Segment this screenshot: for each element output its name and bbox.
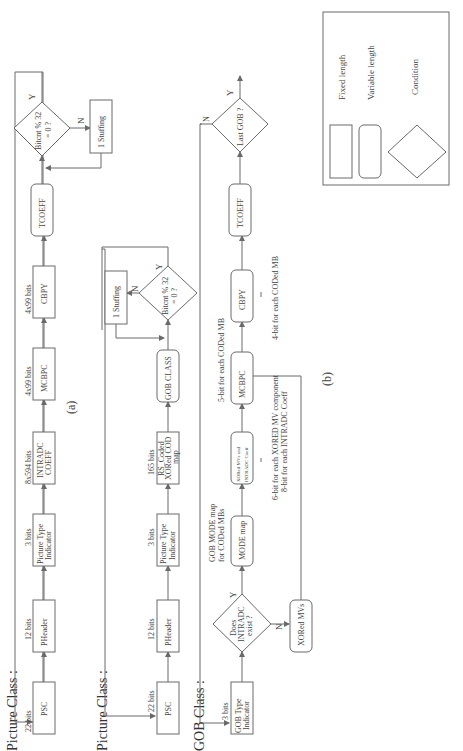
stuffing-return-b — [116, 324, 164, 338]
psc-b-bits: 22 bits — [147, 690, 156, 712]
xored-mv-intradc-box — [231, 432, 253, 484]
tcoeff-a-label: TCOEFF — [38, 198, 47, 228]
last-gob-no: N — [202, 116, 211, 122]
cbpy-a-bits: 4x99 bits — [24, 284, 33, 314]
pheader-b-label: PHeader — [164, 618, 173, 646]
bitcnt-a-label2: = 0 ? — [44, 121, 53, 138]
legend-condition-label: Condition — [410, 58, 420, 95]
part-b-picture: Picture Class : PSC 22 bits PHeader 12 b… — [95, 247, 197, 751]
mode-map-label: MODE map — [238, 521, 247, 560]
picture-class-label-b: Picture Class : — [95, 670, 110, 751]
xored-mv-intradc-note2: 8-bit for each INTRADC Coeff — [280, 391, 289, 492]
caption-b: (b) — [320, 372, 334, 386]
mcbpc-a-label: MCBPC — [40, 364, 49, 392]
picture-class-label-a: Picture Class : — [5, 670, 20, 751]
stuffing-b-label: 1 Stuffing — [112, 286, 121, 318]
caption-a: (a) — [64, 401, 78, 414]
psc-a-label: PSC — [40, 702, 49, 716]
rs-bits: 165 bits — [147, 449, 156, 475]
pheader-a-label: PHeader — [40, 618, 49, 646]
pheader-a-bits: 12 bits — [24, 618, 33, 640]
pti-b-label1: Picture Type — [159, 523, 168, 564]
gob-class-label: GOB CLASS — [164, 356, 173, 400]
bitcnt-b-yes: Y — [154, 263, 164, 270]
pti-a-bits: 3 bits — [24, 528, 33, 546]
pti-b-label2: Indicator — [168, 531, 177, 560]
legend-variable-label: Variable length — [366, 45, 376, 100]
cbpy-b-note: 4-bit for each CODed MB — [271, 256, 280, 340]
intradc-a-label2: COEFF — [44, 450, 53, 475]
legend-fixed-label: Fixed length — [337, 54, 347, 100]
bitcnt-a-no: N — [76, 117, 86, 124]
pheader-b-bits: 12 bits — [147, 618, 156, 640]
legend-condition-shape — [388, 125, 446, 178]
mode-map-note1: GOB MODE map — [208, 504, 217, 562]
cbpy-b-label: CBPY — [238, 289, 247, 310]
bitcnt-b-label1: Bitcnt % 32 — [161, 277, 170, 315]
part-a: Picture Class : PSC 22 bits PHeader 12 b… — [5, 72, 112, 751]
psc-a-bits: 22 bits — [24, 710, 33, 732]
bitcnt-a-yes: Y — [27, 93, 37, 100]
gob-loop-outer — [200, 124, 202, 723]
pti-b-bits: 3 bits — [147, 528, 156, 546]
cbpy-a-label: CBPY — [40, 283, 49, 304]
psc-b-label: PSC — [164, 702, 173, 716]
rs-label3: map — [171, 450, 180, 464]
bitcnt-a-label1: Bitcnt % 32 — [34, 112, 43, 150]
legend: Fixed length Variable length Condition — [323, 12, 449, 185]
mode-map-note2: for CODed MBs — [217, 509, 226, 562]
mcbpc-a-bits: 4x99 bits — [24, 366, 33, 396]
xored-mvs-label: XORed MVs — [297, 604, 306, 646]
stuffing-a-label: 1 Stuffing — [97, 116, 106, 148]
mcbpc-b-label: MCBPC — [238, 370, 247, 398]
pti-a-label2: Indicator — [44, 531, 53, 560]
intradc-q-yes: Y — [228, 591, 238, 598]
gob-type-bits: 3 bits — [221, 702, 230, 720]
last-gob-label: Last GOB ? — [236, 107, 245, 146]
flowchart-diagram: Picture Class : PSC 22 bits PHeader 12 b… — [0, 0, 463, 751]
intradc-a-bits: 8x594 bits — [24, 450, 33, 484]
part-b-gob: GOB Class : GOB Type Indicator 3 bits Do… — [192, 76, 334, 751]
intradc-q-label3: exist ? — [245, 615, 254, 636]
tcoeff-b-label: TCOEFF — [236, 198, 245, 228]
xored-mv-intradc-note1: 6-bit for each XORED MV component — [271, 374, 280, 500]
xored-mv-intradc-label1: XORed MVs and — [236, 447, 241, 482]
legend-variable-shape — [359, 125, 381, 178]
bitcnt-b-label2: = 0 ? — [170, 287, 179, 304]
legend-fixed-shape — [330, 125, 352, 178]
stuffing-return-a — [46, 153, 101, 168]
mcbpc-b-note: 5-bit for each CODed MB — [217, 318, 226, 402]
bitcnt-b-no: N — [130, 285, 140, 292]
xored-mv-intradc-label2: INTRADC Coeff — [244, 447, 249, 482]
last-gob-yes: Y — [225, 89, 235, 96]
gob-type-label2: Indicator — [242, 701, 251, 730]
